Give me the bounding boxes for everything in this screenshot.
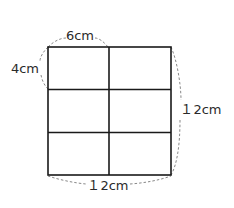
label-cell-width: 6cm <box>66 28 94 43</box>
label-total-width: １2cm <box>87 178 128 193</box>
label-total-height: １2cm <box>180 102 221 117</box>
brace-cell-height <box>40 47 48 89</box>
label-cell-height: 4cm <box>11 61 39 76</box>
diagram-canvas: 6cm 4cm １2cm １2cm <box>0 0 234 208</box>
grid <box>48 47 171 175</box>
